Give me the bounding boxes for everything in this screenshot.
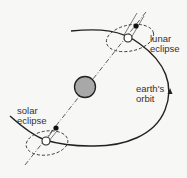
earths-orbit-label: earth's orbit xyxy=(136,84,164,104)
lunar-eclipse-earth xyxy=(124,34,132,42)
sun xyxy=(75,77,96,98)
lunar-eclipse-label: lunar eclipse xyxy=(150,34,180,54)
solar-eclipse-label: solar eclipse xyxy=(17,106,47,126)
solar-eclipse-moon xyxy=(53,125,58,130)
solar-eclipse-label-line2: eclipse xyxy=(17,116,47,126)
lunar-eclipse-label-line2: eclipse xyxy=(150,44,180,54)
solar-eclipse-earth xyxy=(42,137,50,145)
lunar-eclipse-moon xyxy=(133,23,138,28)
earths-orbit-label-line2: orbit xyxy=(136,94,164,104)
